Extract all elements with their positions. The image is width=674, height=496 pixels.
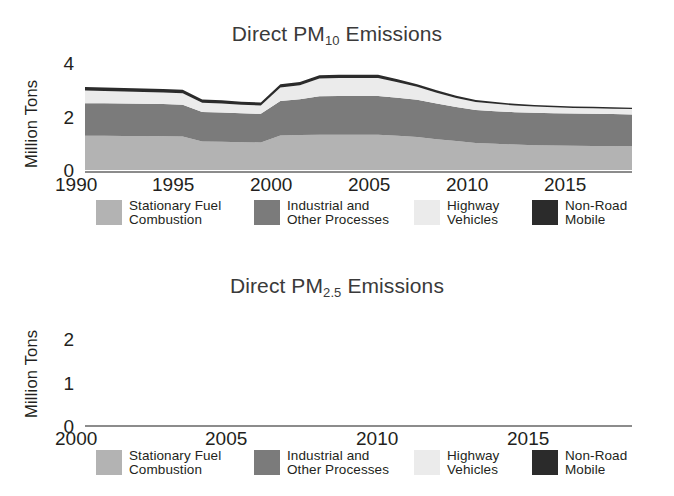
chart-title-subscript: 10	[325, 33, 340, 48]
chart-title-suffix: Emissions	[340, 22, 443, 45]
legend-label-stationary-fuel-combustion: Stationary Fuel Combustion	[129, 199, 221, 226]
y-tick-pm25-1: 1	[63, 374, 74, 393]
x-tick-pm10-1990: 1990	[55, 175, 97, 194]
legend-swatch-non-road-mobile	[532, 200, 558, 225]
x-tick-pm10-2015: 2015	[544, 175, 586, 194]
y-tick-column-pm25: 2 1 0	[48, 248, 74, 448]
legend-swatch-non-road-mobile	[532, 450, 558, 475]
stacked-area-svg-pm10	[85, 62, 632, 170]
x-axis-line-pm25	[85, 425, 632, 427]
x-tick-pm10-2005: 2005	[348, 175, 390, 194]
legend-item-industrial-and-other-processes[interactable]: Industrial and Other Processes	[254, 449, 414, 476]
legend-item-highway-vehicles[interactable]: Highway Vehicles	[414, 449, 532, 476]
chart-title-subscript: 2.5	[323, 285, 341, 300]
chart-pm10: Direct PM10 Emissions Million Tons 4 2 0…	[0, 0, 674, 248]
legend-swatch-industrial-and-other-processes	[254, 200, 280, 225]
x-tick-pm10-2000: 2000	[250, 175, 292, 194]
legend-pm25: Stationary Fuel Combustion Industrial an…	[96, 449, 656, 476]
chart-title-pm10: Direct PM10 Emissions	[0, 22, 674, 46]
legend-swatch-stationary-fuel-combustion	[96, 200, 122, 225]
x-tick-pm10-1995: 1995	[152, 175, 194, 194]
plot-area-pm10	[85, 62, 632, 170]
legend-item-highway-vehicles[interactable]: Highway Vehicles	[414, 199, 532, 226]
legend-label-highway-vehicles: Highway Vehicles	[447, 199, 499, 226]
x-tick-pm25-2015: 2015	[507, 429, 549, 448]
legend-swatch-highway-vehicles	[414, 200, 440, 225]
x-tick-pm25-2010: 2010	[356, 429, 398, 448]
x-tick-pm10-2010: 2010	[446, 175, 488, 194]
chart-title-suffix: Emissions	[341, 274, 444, 297]
legend-item-non-road-mobile[interactable]: Non-Road Mobile	[532, 449, 652, 476]
x-axis-line-pm10	[85, 171, 632, 173]
chart-title-prefix: Direct PM	[230, 274, 323, 297]
y-tick-column-pm10: 4 2 0	[48, 0, 74, 200]
y-tick-pm10-2: 2	[63, 108, 74, 127]
legend-item-industrial-and-other-processes[interactable]: Industrial and Other Processes	[254, 199, 414, 226]
legend-label-industrial-and-other-processes: Industrial and Other Processes	[287, 449, 389, 476]
legend-label-highway-vehicles: Highway Vehicles	[447, 449, 499, 476]
legend-label-stationary-fuel-combustion: Stationary Fuel Combustion	[129, 449, 221, 476]
legend-item-stationary-fuel-combustion[interactable]: Stationary Fuel Combustion	[96, 199, 254, 226]
legend-swatch-industrial-and-other-processes	[254, 450, 280, 475]
x-tick-pm25-2000: 2000	[55, 429, 97, 448]
y-axis-label-pm10: Million Tons	[22, 80, 41, 168]
chart-pm25: Direct PM2.5 Emissions Million Tons 2 1 …	[0, 248, 674, 496]
legend-label-industrial-and-other-processes: Industrial and Other Processes	[287, 199, 389, 226]
legend-item-stationary-fuel-combustion[interactable]: Stationary Fuel Combustion	[96, 449, 254, 476]
chart-title-pm25: Direct PM2.5 Emissions	[0, 274, 674, 298]
legend-pm10: Stationary Fuel Combustion Industrial an…	[96, 199, 656, 226]
legend-label-non-road-mobile: Non-Road Mobile	[565, 449, 627, 476]
legend-item-non-road-mobile[interactable]: Non-Road Mobile	[532, 199, 652, 226]
legend-swatch-highway-vehicles	[414, 450, 440, 475]
y-axis-label-pm25: Million Tons	[22, 330, 41, 418]
legend-label-non-road-mobile: Non-Road Mobile	[565, 199, 627, 226]
legend-swatch-stationary-fuel-combustion	[96, 450, 122, 475]
y-tick-pm10-4: 4	[63, 54, 74, 73]
x-tick-pm25-2005: 2005	[205, 429, 247, 448]
y-tick-pm25-2: 2	[63, 330, 74, 349]
chart-title-prefix: Direct PM	[232, 22, 325, 45]
